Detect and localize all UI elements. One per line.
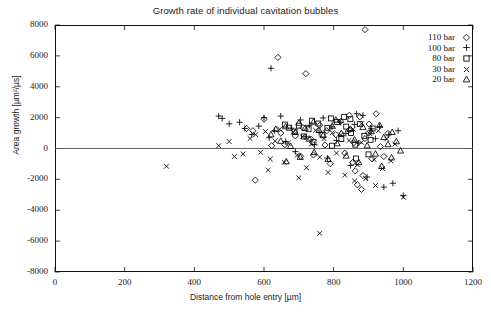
- y-tick-label: -6000: [0, 235, 48, 245]
- legend-marker-cross-icon: [461, 64, 472, 75]
- legend-item-110-bar: 110 bar: [388, 32, 472, 43]
- marker-triangle: [463, 76, 470, 82]
- marker-plus: [463, 45, 470, 52]
- legend-item-30-bar: 30 bar: [388, 64, 472, 75]
- legend-marker-square-icon: [461, 53, 472, 64]
- y-tick-label: -8000: [0, 266, 48, 276]
- x-tick-label: 400: [169, 277, 219, 287]
- y-tick-label: 6000: [0, 50, 48, 60]
- y-tick-label: 8000: [0, 19, 48, 29]
- legend-marker-triangle-icon: [461, 74, 472, 85]
- legend-marker-plus-icon: [461, 42, 472, 53]
- legend: 110 bar100 bar80 bar30 bar20 bar: [388, 32, 472, 85]
- y-tick-label: -4000: [0, 204, 48, 214]
- legend-item-label: 110 bar: [428, 32, 461, 43]
- legend-item-label: 20 bar: [432, 74, 461, 85]
- legend-item-20-bar: 20 bar: [388, 74, 472, 85]
- y-tick-label: -2000: [0, 173, 48, 183]
- marker-diamond: [463, 34, 470, 41]
- legend-item-100-bar: 100 bar: [388, 43, 472, 54]
- y-tick-label: 2000: [0, 112, 48, 122]
- x-tick-label: 1000: [378, 277, 428, 287]
- legend-item-80-bar: 80 bar: [388, 53, 472, 64]
- x-tick-label: 0: [30, 277, 80, 287]
- x-tick-label: 600: [239, 277, 289, 287]
- legend-item-label: 100 bar: [428, 43, 461, 54]
- legend-item-label: 80 bar: [432, 53, 461, 64]
- x-axis-label: Distance from hole entry [µm]: [0, 292, 491, 302]
- legend-item-label: 30 bar: [432, 64, 461, 75]
- x-tick-label: 1200: [448, 277, 491, 287]
- figure: Growth rate of individual cavitation bub…: [0, 0, 491, 312]
- page-title: Growth rate of individual cavitation bub…: [0, 5, 491, 16]
- y-tick-label: 4000: [0, 81, 48, 91]
- y-axis-label: Area growth [µm²/µs]: [11, 55, 21, 175]
- legend-marker-diamond-icon: [461, 32, 472, 43]
- y-tick-label: 0: [0, 143, 48, 153]
- x-tick-label: 200: [100, 277, 150, 287]
- marker-cross: [464, 67, 469, 72]
- marker-square: [464, 56, 469, 61]
- x-tick-label: 800: [309, 277, 359, 287]
